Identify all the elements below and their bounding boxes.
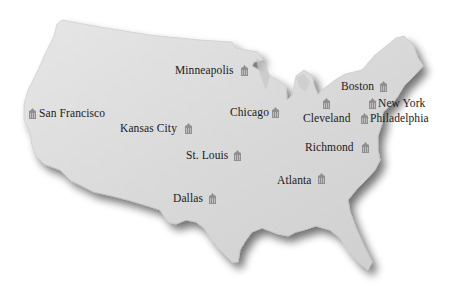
city-atlanta: Atlanta <box>277 174 326 186</box>
city-label: Philadelphia <box>370 112 429 124</box>
bank-building-icon <box>322 98 331 109</box>
city-label: Atlanta <box>277 174 312 186</box>
city-label: Chicago <box>230 106 269 118</box>
bank-building-icon <box>361 142 370 153</box>
city-dallas: Dallas <box>173 192 217 204</box>
bank-building-icon <box>271 107 280 118</box>
bank-building-icon <box>28 108 37 119</box>
bank-building-icon <box>379 81 388 92</box>
bank-building-icon <box>368 98 377 109</box>
city-minneapolis: Minneapolis <box>175 64 249 76</box>
us-silhouette <box>0 0 459 286</box>
bank-building-icon <box>240 65 249 76</box>
bank-building-icon <box>184 123 193 134</box>
city-richmond: Richmond <box>305 141 370 153</box>
city-chicago: Chicago <box>230 106 280 118</box>
city-label: Richmond <box>305 141 354 153</box>
city-label: Cleveland <box>303 112 351 124</box>
city-label: Minneapolis <box>175 64 234 76</box>
city-st-louis: St. Louis <box>186 149 242 161</box>
city-label: Boston <box>341 80 374 92</box>
city-cleveland: Cleveland <box>303 112 351 124</box>
bank-building-icon <box>233 150 242 161</box>
bank-building-icon <box>317 173 326 184</box>
city-label: Kansas City <box>120 122 177 134</box>
city-san-francisco: San Francisco <box>28 107 105 119</box>
city-philadelphia: Philadelphia <box>360 112 429 124</box>
bank-building-icon <box>360 113 369 124</box>
city-label: San Francisco <box>39 107 105 119</box>
city-label: New York <box>378 97 425 109</box>
bank-building-icon <box>208 193 217 204</box>
city-label: Dallas <box>173 192 203 204</box>
city-boston: Boston <box>341 80 388 92</box>
city-new-york: New York <box>368 97 425 109</box>
us-map: Minneapolis San Francisco Kansas City Ch… <box>0 0 459 286</box>
city-kansas-city: Kansas City <box>120 122 193 134</box>
city-label: St. Louis <box>186 149 228 161</box>
